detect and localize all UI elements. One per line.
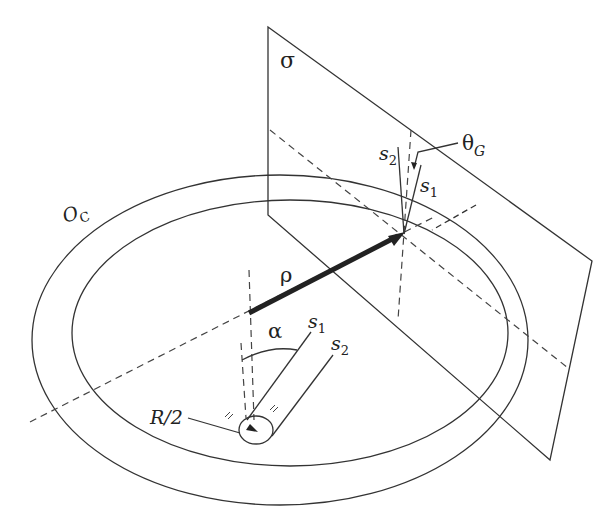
tick-mark-right (270, 405, 275, 410)
label-theta: θG (462, 131, 485, 159)
tick-mark-left (225, 412, 230, 417)
dashed-vertical-offset (241, 343, 246, 418)
tick-mark-left (228, 414, 233, 419)
plane-sigma (268, 27, 592, 460)
ray-s1-bottom (247, 332, 311, 420)
geometry-diagram: σ OC ρ α s1 s2 s2 s1 θG R/2 (0, 0, 615, 522)
label-alpha: α (268, 319, 282, 343)
alpha-arc (242, 349, 297, 360)
radius-leader (188, 418, 240, 433)
label-circle: OC (59, 198, 91, 231)
ray-s2-bottom (272, 355, 333, 436)
dashed-vertical-center (249, 270, 254, 420)
label-rho: ρ (280, 263, 292, 287)
label-radius: R/2 (149, 406, 183, 428)
radius-arrowhead (246, 424, 258, 432)
label-sigma: σ (280, 48, 295, 73)
tick-mark-right (273, 407, 278, 412)
label-s2-bottom: s2 (331, 332, 349, 358)
